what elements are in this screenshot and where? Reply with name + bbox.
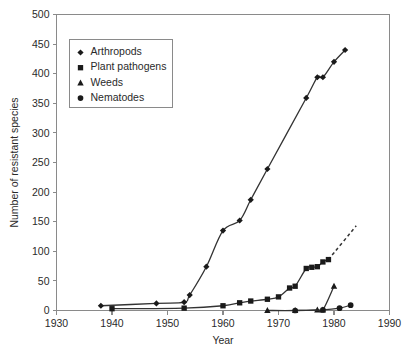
data-point-marker-diamond xyxy=(153,300,159,306)
data-point-marker-square xyxy=(276,294,281,299)
x-tick-label: 1940 xyxy=(100,317,124,329)
y-tick-label: 200 xyxy=(32,186,50,198)
y-tick-label: 400 xyxy=(32,67,50,79)
data-point-marker-circle xyxy=(320,307,326,313)
x-tick-label: 1970 xyxy=(267,317,291,329)
x-axis-title: Year xyxy=(212,334,234,346)
data-point-marker-diamond xyxy=(98,303,104,309)
y-tick-label: 450 xyxy=(32,38,50,50)
data-point-marker-diamond xyxy=(203,264,209,270)
data-point-marker-square xyxy=(326,257,331,262)
data-point-marker-square xyxy=(220,303,225,308)
data-point-marker-square xyxy=(320,259,325,264)
data-point-marker-circle xyxy=(337,305,343,311)
data-point-marker-square xyxy=(265,297,270,302)
data-point-marker-circle xyxy=(348,302,354,308)
y-tick-label: 0 xyxy=(44,304,50,316)
data-point-marker-square xyxy=(304,266,309,271)
y-tick-label: 300 xyxy=(32,127,50,139)
x-tick-label: 1960 xyxy=(211,317,235,329)
x-tick-label: 1990 xyxy=(378,317,402,329)
data-point-marker-square xyxy=(292,284,297,289)
data-point-marker-square xyxy=(237,300,242,305)
data-point-marker-circle xyxy=(292,308,298,314)
legend-label: Nematodes xyxy=(91,91,145,103)
y-axis-title: Number of resistant species xyxy=(8,97,20,227)
series-plant-pathogens xyxy=(109,226,356,312)
x-tick-label: 1930 xyxy=(45,317,69,329)
data-point-marker-square xyxy=(309,265,314,270)
chart-legend: ArthropodsPlant pathogensWeedsNematodes xyxy=(70,40,173,108)
legend-marker-square xyxy=(78,65,83,70)
data-point-marker-diamond xyxy=(264,166,270,172)
x-tick-label: 1980 xyxy=(322,317,346,329)
y-tick-label: 500 xyxy=(32,8,50,20)
y-tick-label: 350 xyxy=(32,97,50,109)
legend-label: Weeds xyxy=(91,76,124,88)
data-point-marker-square xyxy=(181,305,186,310)
legend-label: Plant pathogens xyxy=(91,60,167,72)
y-tick-label: 50 xyxy=(38,275,50,287)
data-point-marker-diamond xyxy=(181,299,187,305)
data-point-marker-triangle xyxy=(331,283,337,289)
legend-marker-circle xyxy=(78,95,84,101)
resistant-species-line-chart: 0501001502002503003504004505001930194019… xyxy=(0,0,411,353)
data-point-marker-square xyxy=(109,306,114,311)
y-tick-label: 100 xyxy=(32,245,50,257)
data-point-marker-diamond xyxy=(248,197,254,203)
series-nematodes xyxy=(292,302,353,313)
data-point-marker-diamond xyxy=(187,292,193,298)
data-point-marker-diamond xyxy=(303,95,309,101)
data-point-marker-square xyxy=(248,298,253,303)
legend-item-plant-pathogens[interactable]: Plant pathogens xyxy=(78,60,167,72)
chart-container: 0501001502002503003504004505001930194019… xyxy=(0,0,411,353)
data-point-marker-square xyxy=(287,285,292,290)
x-tick-label: 1950 xyxy=(156,317,180,329)
data-point-marker-square xyxy=(315,264,320,269)
series-line-projection xyxy=(328,226,356,260)
y-tick-label: 250 xyxy=(32,156,50,168)
legend-label: Arthropods xyxy=(91,45,142,57)
y-tick-label: 150 xyxy=(32,215,50,227)
